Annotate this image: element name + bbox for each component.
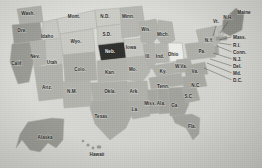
state-label-neb: Neb.	[105, 49, 115, 54]
state-label-ny: N.Y.	[205, 38, 214, 43]
state-label-hawaii: Hawaii	[90, 152, 105, 157]
state-label-ala: Ala.	[157, 101, 166, 106]
state-label-dc: D.C.	[233, 78, 242, 83]
state-label-nh: N.H.	[223, 15, 232, 20]
state-ariz[interactable]	[34, 64, 64, 101]
state-label-miss: Miss.	[144, 101, 156, 106]
state-label-wis: Wis.	[141, 27, 151, 32]
state-label-wash: Wash.	[21, 11, 35, 16]
us-map-svg: Wash.Ore.Calif.IdahoNev.UtahAriz.Mont.Wy…	[0, 0, 262, 168]
state-label-okla: Okla.	[104, 89, 116, 94]
state-label-mich: Mich.	[157, 32, 169, 37]
state-label-ri: R.I.	[233, 43, 240, 48]
state-label-mont: Mont.	[68, 14, 81, 19]
state-label-va: Va.	[192, 69, 199, 74]
state-label-texas: Texas	[95, 114, 108, 119]
state-label-nev: Nev.	[30, 54, 40, 59]
state-label-ark: Ark.	[129, 89, 138, 94]
state-label-vt: Vt.	[213, 19, 219, 24]
state-label-nmex: N.M.	[67, 89, 77, 94]
state-label-conn: Conn.	[233, 50, 246, 55]
state-label-la: La.	[132, 107, 139, 112]
state-label-idaho: Idaho	[41, 34, 54, 39]
state-label-ind: Ind.	[156, 54, 164, 59]
state-label-ncar: N.C.	[191, 83, 200, 88]
state-vt[interactable]	[214, 26, 219, 37]
state-label-iowa: Iowa	[126, 45, 137, 50]
state-label-scar: S.C.	[184, 94, 193, 99]
state-label-ky: Ky.	[160, 69, 167, 74]
state-label-ohio: Ohio	[168, 52, 179, 57]
state-label-utah: Utah	[47, 60, 58, 65]
us-map: Wash.Ore.Calif.IdahoNev.UtahAriz.Mont.Wy…	[0, 0, 262, 168]
state-label-ill: Ill.	[145, 54, 150, 59]
state-label-ariz: Ariz.	[42, 85, 52, 90]
state-label-pa: Pa.	[198, 49, 205, 54]
state-label-fla: Fla.	[188, 124, 196, 129]
state-label-alaska: Alaska	[37, 135, 53, 140]
state-label-calif: Calif.	[11, 61, 23, 66]
state-label-kan: Kan.	[105, 70, 115, 75]
state-label-wyo: Wyo.	[70, 39, 81, 44]
state-label-colo: Colo.	[74, 67, 86, 72]
state-label-maine: Maine	[237, 10, 251, 15]
state-label-wva: W.Va.	[175, 64, 187, 69]
state-label-ore: Ore.	[17, 28, 26, 33]
state-label-ga: Ga.	[171, 103, 179, 108]
state-label-minn: Minn.	[122, 14, 134, 19]
state-label-tenn: Tenn.	[157, 84, 169, 89]
state-label-md: Md.	[233, 71, 241, 76]
state-label-nj: N.J.	[233, 57, 242, 62]
state-label-del: Del.	[233, 64, 242, 69]
state-label-ndak: N.D.	[100, 14, 109, 19]
state-label-mo: Mo.	[129, 67, 137, 72]
state-label-sdak: S.D.	[102, 32, 111, 37]
state-label-mass: Mass.	[233, 35, 246, 40]
